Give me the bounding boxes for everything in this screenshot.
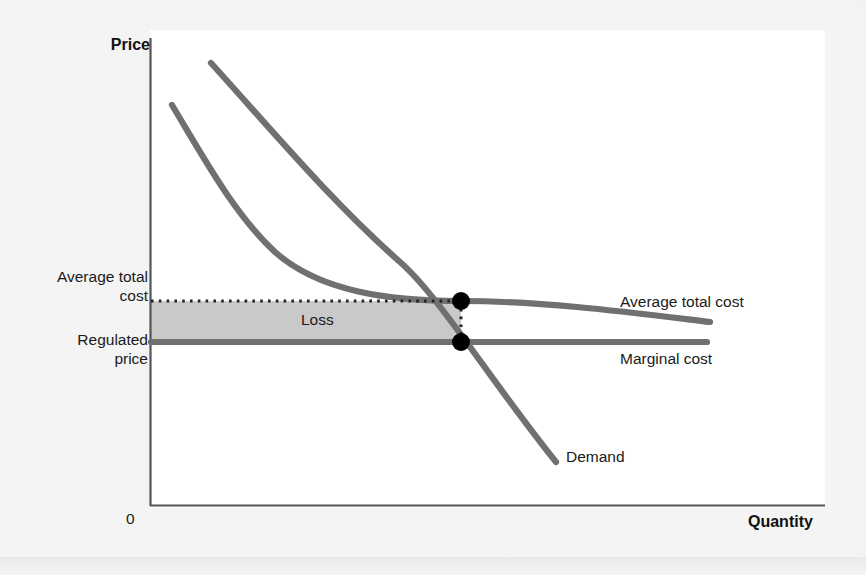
y-tick-label-average-total-cost: Average total cost (57, 267, 148, 305)
demand-label: Demand (566, 448, 625, 466)
y-tick-label-regulated-price: Regulated price (77, 330, 148, 368)
average-total-cost-curve (172, 105, 710, 322)
origin-label: 0 (126, 509, 135, 528)
marginal-cost-label: Marginal cost (620, 350, 712, 368)
demand-curve (211, 63, 556, 462)
x-axis-title: Quantity (748, 513, 813, 531)
loss-region-label: Loss (301, 311, 334, 329)
y-axis-title: Price (111, 36, 150, 54)
average-total-cost-label: Average total cost (620, 293, 744, 311)
regulated-price-marker (452, 333, 470, 351)
average-total-cost-marker (452, 292, 470, 310)
economics-diagram-figure: Price Quantity 0 Average total cost Regu… (0, 0, 866, 575)
